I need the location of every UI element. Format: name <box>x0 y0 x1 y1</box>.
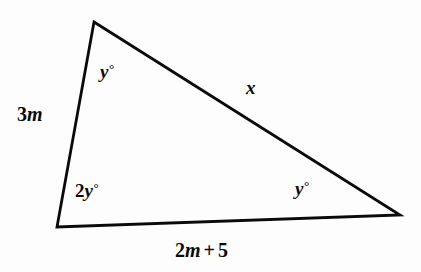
angle-label-bottom-left: 2y° <box>75 181 99 200</box>
triangle-shape <box>0 0 421 272</box>
angle-top-variable: y <box>100 61 108 82</box>
angle-label-bottom-right: y° <box>295 179 309 198</box>
geometry-diagram: y° 3m x 2y° y° 2m+5 <box>0 0 421 272</box>
side-left-number: 3 <box>17 103 27 125</box>
triangle-outline <box>57 22 400 227</box>
angle-bottom-right-degree-symbol: ° <box>304 178 309 193</box>
side-label-left: 3m <box>17 104 43 124</box>
angle-bottom-left-degree-symbol: ° <box>93 180 98 195</box>
side-label-hypotenuse: x <box>246 78 256 97</box>
angle-bottom-left-coefficient: 2 <box>75 180 85 201</box>
angle-label-top: y° <box>100 62 114 81</box>
angle-bottom-left-variable: y <box>85 180 93 201</box>
angle-top-degree-symbol: ° <box>109 61 114 76</box>
side-hypotenuse-variable: x <box>246 77 256 98</box>
side-base-operator: + <box>204 239 215 261</box>
angle-bottom-right-variable: y <box>295 178 303 199</box>
side-base-constant: 5 <box>218 239 228 261</box>
side-label-base: 2m+5 <box>175 240 228 260</box>
side-base-number: 2 <box>175 239 185 261</box>
side-left-variable: m <box>27 103 43 125</box>
side-base-variable: m <box>185 239 201 261</box>
